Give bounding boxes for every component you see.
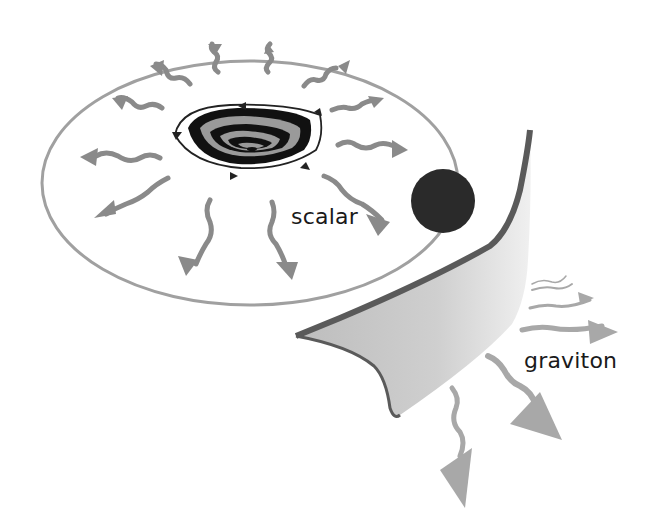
accretion-disk — [42, 61, 458, 305]
diagram-canvas — [0, 0, 651, 530]
scalar-label: scalar — [291, 204, 358, 229]
graviton-label: graviton — [524, 348, 617, 373]
compact-object — [411, 169, 475, 233]
